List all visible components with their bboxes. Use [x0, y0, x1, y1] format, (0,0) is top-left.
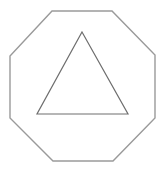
diagram-canvas: [0, 0, 166, 171]
triangle-shape: [37, 32, 128, 114]
